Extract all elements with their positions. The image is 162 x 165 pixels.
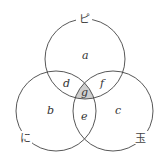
venn-diagram: ピ に 玉 a b c d e f g [0, 0, 162, 165]
region-d: d [63, 77, 70, 90]
venn-svg: ピ に 玉 a b c d e f g [0, 0, 162, 165]
region-b: b [47, 104, 54, 117]
region-e: e [81, 110, 88, 123]
region-c: c [115, 104, 121, 117]
region-f: f [99, 77, 106, 90]
set-label-left: に [20, 132, 31, 145]
set-label-top: ピ [79, 13, 90, 26]
region-a: a [82, 49, 89, 62]
set-label-right: 玉 [135, 132, 146, 145]
region-g: g [81, 86, 88, 99]
